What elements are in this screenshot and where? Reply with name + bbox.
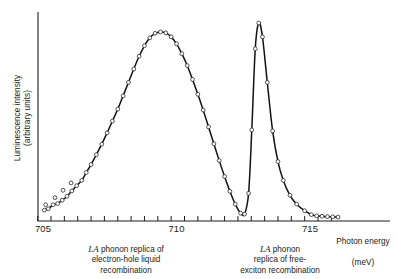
- data-point-marker: [303, 209, 307, 213]
- annotation-electron-hole-liquid: LA phonon replica of electron-hole liqui…: [56, 234, 196, 276]
- data-point-marker: [69, 181, 73, 185]
- data-point-marker: [217, 159, 221, 163]
- x-axis-tick-label: 705: [35, 223, 51, 234]
- data-point-marker: [257, 21, 261, 25]
- data-point-marker: [196, 92, 200, 96]
- data-point-marker: [116, 107, 120, 111]
- data-point-marker: [46, 207, 50, 211]
- data-point-marker: [105, 131, 109, 135]
- data-point-marker: [228, 189, 232, 193]
- data-point-marker: [148, 36, 152, 40]
- annotation-right-text: phonon replica of free- exciton recombin…: [240, 245, 320, 274]
- data-point-marker: [281, 179, 285, 183]
- data-point-marker: [253, 47, 257, 51]
- data-point-marker: [169, 35, 173, 39]
- data-point-marker: [207, 125, 211, 129]
- data-point-marker: [137, 54, 141, 58]
- data-point-marker: [325, 215, 329, 219]
- data-point-marker: [271, 129, 275, 133]
- data-point-marker: [336, 215, 340, 219]
- data-point-marker: [127, 81, 131, 85]
- data-point-marker: [309, 213, 313, 217]
- data-point-marker: [80, 179, 84, 183]
- data-point-marker: [42, 208, 46, 212]
- data-point-marker: [247, 191, 251, 195]
- x-axis-tick-label: 710: [169, 223, 185, 234]
- data-point-marker: [250, 128, 254, 132]
- x-axis-tick-label: 715: [302, 223, 318, 234]
- data-point-marker: [95, 153, 99, 157]
- data-point-marker: [261, 35, 265, 39]
- data-point-marker: [56, 202, 60, 206]
- data-point-marker: [180, 52, 184, 56]
- data-point-marker: [75, 184, 79, 188]
- data-point-marker: [320, 214, 324, 218]
- data-point-marker: [51, 203, 55, 207]
- data-point-marker: [201, 108, 205, 112]
- data-point-marker: [143, 44, 147, 48]
- data-point-marker: [243, 212, 247, 216]
- data-point-marker: [295, 202, 299, 206]
- data-point-marker: [191, 78, 195, 82]
- luminescence-spectrum-figure: 705710715 Luminescence intensity(arbitra…: [0, 0, 398, 279]
- data-point-marker: [84, 171, 88, 175]
- data-point-marker: [65, 194, 69, 198]
- data-point-marker: [276, 160, 280, 164]
- x-axis-title-line1: Photon energy: [336, 237, 389, 246]
- data-point-marker: [60, 198, 64, 202]
- data-point-marker: [89, 163, 93, 167]
- data-point-marker: [331, 215, 335, 219]
- data-point-marker: [265, 81, 269, 85]
- annotation-left-text: phonon replica of electron-hole liquid r…: [92, 245, 164, 274]
- data-point-marker: [315, 214, 319, 218]
- data-point-marker: [132, 67, 136, 71]
- data-point-marker: [233, 202, 237, 206]
- data-point-marker: [121, 94, 125, 98]
- annotation-right-emphasis: LA: [260, 244, 271, 254]
- annotation-left-emphasis: LA: [88, 244, 99, 254]
- data-point-marker: [70, 189, 74, 193]
- data-point-marker: [159, 30, 163, 34]
- data-point-marker: [185, 64, 189, 68]
- data-point-marker: [212, 142, 216, 146]
- data-point-marker: [61, 188, 65, 192]
- y-axis-label: Luminescence intensity(arbitrary units): [12, 74, 32, 161]
- spectrum-curve: [44, 23, 338, 217]
- data-point-marker: [53, 196, 57, 200]
- y-axis-label-line: (arbitrary units): [22, 90, 32, 146]
- plot-axes: [38, 12, 390, 221]
- data-point-marker: [223, 175, 227, 179]
- data-point-marker: [111, 119, 115, 123]
- data-point-marker: [44, 203, 48, 207]
- data-point-marker: [153, 31, 157, 35]
- data-point-marker: [239, 211, 243, 215]
- data-point-marker: [164, 31, 168, 35]
- x-axis-title: Photon energy (meV): [327, 227, 398, 268]
- data-point-marker: [100, 142, 104, 146]
- x-axis-title-line2: (meV): [352, 258, 374, 267]
- y-axis-label-line: Luminescence intensity: [12, 74, 22, 161]
- data-point-marker: [288, 193, 292, 197]
- data-point-marker: [175, 42, 179, 46]
